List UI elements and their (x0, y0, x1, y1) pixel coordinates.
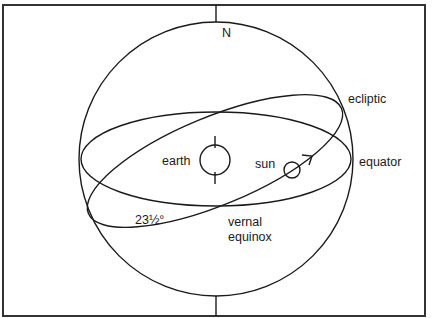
vernal-equinox-label-line1: vernal (228, 215, 262, 229)
earth-label: earth (162, 154, 191, 168)
celestial-sphere-diagram: N ecliptic equator earth sun 23½° vernal… (0, 0, 434, 318)
sun-label: sun (255, 157, 275, 171)
north-label: N (222, 26, 231, 40)
ecliptic-path (72, 68, 359, 254)
tilt-angle-label: 23½° (135, 213, 164, 227)
celestial-sphere (79, 22, 353, 296)
vernal-equinox-label-line2: equinox (228, 230, 273, 244)
equator-label: equator (359, 155, 401, 169)
ecliptic-label: ecliptic (348, 92, 386, 106)
earth-icon (200, 145, 230, 175)
